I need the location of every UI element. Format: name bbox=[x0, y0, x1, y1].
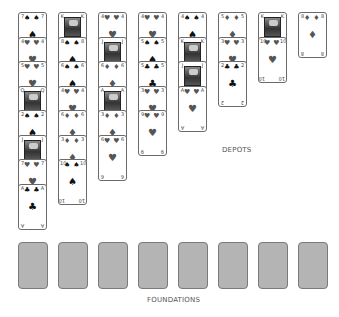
suit-pips-icon: ♥♥ bbox=[224, 40, 241, 47]
suit-pips-icon: ♠♠ bbox=[64, 40, 81, 47]
suit-center-icon: ♣ bbox=[219, 79, 246, 89]
card-rank: 9 bbox=[160, 149, 165, 154]
suit-pips-icon: ♣♣ bbox=[24, 187, 41, 194]
card-rank: 6 bbox=[120, 174, 125, 179]
suit-center-icon: ♣ bbox=[19, 202, 46, 212]
card-rank: 6 bbox=[100, 174, 105, 179]
card-rank: 10 bbox=[80, 198, 85, 203]
playing-card[interactable]: 8888♦♦♦ bbox=[298, 12, 327, 58]
card-rank: A bbox=[20, 223, 25, 228]
card-rank: A bbox=[40, 223, 45, 228]
card-rank: A bbox=[200, 125, 205, 130]
card-rank: 8 bbox=[300, 51, 305, 56]
playing-card[interactable]: 6666♥♥♥ bbox=[98, 135, 127, 181]
suit-pips-icon: ♠♠ bbox=[144, 40, 161, 47]
suit-pips-icon: ♥♥ bbox=[24, 162, 41, 169]
foundations-label: FOUNDATIONS bbox=[147, 296, 200, 304]
suit-pips-icon: ♥♥ bbox=[24, 64, 41, 71]
suit-pips-icon: ♦♦ bbox=[224, 15, 241, 22]
suit-pips-icon: ♠♠ bbox=[24, 15, 41, 22]
suit-pips-icon: ♥♥ bbox=[104, 138, 121, 145]
face-card-portrait-icon bbox=[104, 91, 121, 111]
face-card-portrait-icon bbox=[184, 66, 201, 86]
foundation-slot-4[interactable] bbox=[138, 242, 168, 289]
foundation-slot-1[interactable] bbox=[18, 242, 48, 289]
playing-card[interactable]: 10101010♥♥♥ bbox=[258, 37, 287, 83]
card-rank: 9 bbox=[140, 149, 145, 154]
card-rank: 2 bbox=[220, 100, 225, 105]
foundation-slot-7[interactable] bbox=[258, 242, 288, 289]
suit-pips-icon: ♠♠ bbox=[64, 64, 81, 71]
suit-pips-icon: ♣♣ bbox=[144, 64, 161, 71]
suit-center-icon: ♥ bbox=[259, 55, 286, 65]
face-card-portrait-icon bbox=[264, 17, 281, 37]
face-card-portrait-icon bbox=[24, 140, 41, 160]
card-rank: 8 bbox=[320, 51, 325, 56]
suit-center-icon: ♦ bbox=[299, 30, 326, 40]
foundation-slot-6[interactable] bbox=[218, 242, 248, 289]
suit-pips-icon: ♦♦ bbox=[64, 138, 81, 145]
card-rank: A bbox=[180, 125, 185, 130]
suit-pips-icon: ♦♦ bbox=[104, 113, 121, 120]
suit-pips-icon: ♥♥ bbox=[144, 15, 161, 22]
playing-card[interactable]: 2222♣♣♣ bbox=[218, 61, 247, 107]
playing-card[interactable]: AAAA♣♣♣ bbox=[18, 184, 47, 230]
suit-pips-icon: ♥♥ bbox=[104, 15, 121, 22]
face-card-portrait-icon bbox=[64, 17, 81, 37]
face-card-portrait-icon bbox=[104, 42, 121, 62]
suit-pips-icon: ♦♦ bbox=[304, 15, 321, 22]
suit-center-icon: ♥ bbox=[179, 104, 206, 114]
depots-label: DEPOTS bbox=[222, 146, 251, 154]
playing-card[interactable]: AAAA♥♥♥ bbox=[178, 86, 207, 132]
foundation-slot-2[interactable] bbox=[58, 242, 88, 289]
suit-pips-icon: ♥♥ bbox=[64, 89, 81, 96]
face-card-portrait-icon bbox=[184, 42, 201, 62]
suit-pips-icon: ♦♦ bbox=[104, 64, 121, 71]
suit-center-icon: ♥ bbox=[99, 153, 126, 163]
suit-pips-icon: ♥♥ bbox=[144, 113, 161, 120]
suit-center-icon: ♠ bbox=[59, 177, 86, 187]
card-rank: 10 bbox=[60, 198, 65, 203]
suit-center-icon: ♥ bbox=[139, 128, 166, 138]
suit-pips-icon: ♠♠ bbox=[184, 15, 201, 22]
suit-pips-icon: ♥♥ bbox=[264, 40, 281, 47]
card-rank: 10 bbox=[280, 76, 285, 81]
suit-pips-icon: ♠♠ bbox=[64, 162, 81, 169]
suit-pips-icon: ♥♥ bbox=[24, 40, 41, 47]
suit-pips-icon: ♣♣ bbox=[224, 64, 241, 71]
suit-pips-icon: ♠♠ bbox=[24, 113, 41, 120]
foundation-slot-3[interactable] bbox=[98, 242, 128, 289]
suit-pips-icon: ♦♦ bbox=[64, 113, 81, 120]
card-rank: 10 bbox=[260, 76, 265, 81]
face-card-portrait-icon bbox=[24, 91, 41, 111]
playing-card[interactable]: 9999♥♥♥ bbox=[138, 110, 167, 156]
card-rank: 2 bbox=[240, 100, 245, 105]
playing-card[interactable]: 10101010♠♠♠ bbox=[58, 159, 87, 205]
suit-pips-icon: ♥♥ bbox=[144, 89, 161, 96]
foundation-slot-5[interactable] bbox=[178, 242, 208, 289]
foundation-slot-8[interactable] bbox=[298, 242, 328, 289]
suit-pips-icon: ♥♥ bbox=[184, 89, 201, 96]
